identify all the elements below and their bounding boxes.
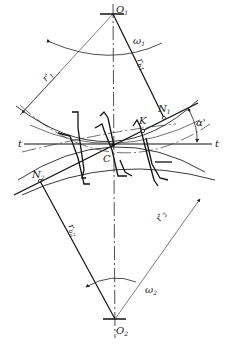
label-rb2: rb2 <box>65 222 80 238</box>
point-c <box>111 143 115 147</box>
label-alpha-prime: α' <box>196 117 206 128</box>
label-r1-prime: r'1 <box>40 69 55 84</box>
label-r2-prime: r'2 <box>153 209 168 224</box>
label-omega1: ω1 <box>133 35 145 47</box>
label-t-left: t <box>18 138 23 149</box>
omega1-arc <box>50 42 162 55</box>
gear2-addendum-circle <box>18 147 205 180</box>
gear2-base-circle <box>22 169 215 195</box>
gear-mesh-diagram: O1 O2 C K N1 N2 ω1 ω2 α' t t r'1 rb1 rb2… <box>0 0 226 344</box>
label-c: C <box>103 153 111 164</box>
tooth-profiles <box>58 112 172 186</box>
label-t-right: t <box>215 138 220 149</box>
label-rb1: rb1 <box>134 56 149 72</box>
center-line <box>113 4 115 338</box>
rb2-line <box>40 181 115 319</box>
label-o2: O2 <box>116 325 128 337</box>
gear1-addendum-circle <box>16 100 198 142</box>
point-n1 <box>162 116 165 119</box>
label-omega2: ω2 <box>145 284 157 296</box>
label-o1: O1 <box>116 4 128 16</box>
label-k: K <box>138 115 147 126</box>
label-n2: N2 <box>31 169 45 181</box>
label-n1: N1 <box>157 103 171 115</box>
point-k <box>141 129 144 132</box>
